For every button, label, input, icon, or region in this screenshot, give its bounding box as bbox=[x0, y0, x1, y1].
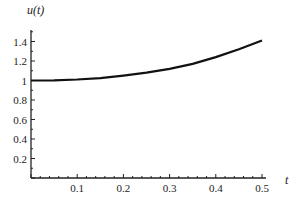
y-tick-label: 0.8 bbox=[13, 94, 27, 106]
x-tick-label: 0.3 bbox=[163, 182, 177, 194]
y-tick-label: 0.2 bbox=[13, 153, 27, 165]
ticks: 0.10.20.30.40.50.20.40.60.811.21.4 bbox=[13, 32, 269, 194]
x-tick-label: 0.1 bbox=[70, 182, 84, 194]
series-line-u bbox=[31, 41, 262, 81]
x-tick-label: 0.5 bbox=[255, 182, 269, 194]
y-tick-label: 1 bbox=[22, 75, 28, 87]
line-chart: 0.10.20.30.40.50.20.40.60.811.21.4 u(t) … bbox=[0, 0, 301, 205]
x-tick-label: 0.4 bbox=[209, 182, 223, 194]
x-tick-label: 0.2 bbox=[117, 182, 131, 194]
y-axis-label: u(t) bbox=[27, 3, 44, 17]
y-tick-label: 0.4 bbox=[13, 133, 27, 145]
y-tick-label: 1.2 bbox=[13, 55, 27, 67]
y-tick-label: 1.4 bbox=[13, 36, 27, 48]
x-axis-label: t bbox=[285, 173, 289, 187]
y-tick-label: 0.6 bbox=[13, 114, 27, 126]
